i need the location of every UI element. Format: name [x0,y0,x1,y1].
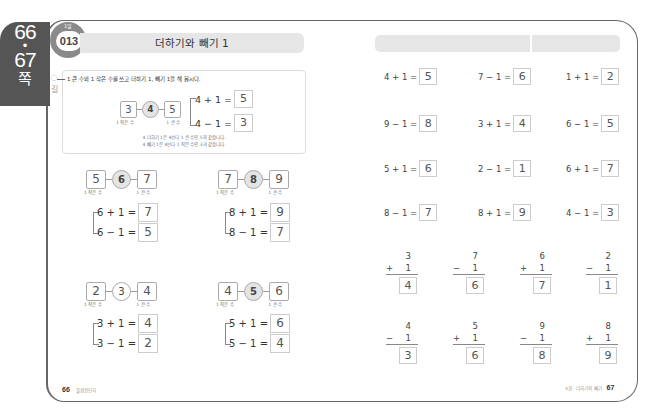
chain-labels: 1 작은 수 1 큰 수 [216,189,282,195]
larger-number[interactable]: 7 [137,170,157,189]
add-answer[interactable]: 7 [138,203,158,222]
answer-box[interactable]: 5 [601,115,619,132]
larger-number[interactable]: 9 [269,170,289,189]
page-suffix: 쪽 [0,70,50,88]
example-add: 4 + 1 = 5 [195,90,253,108]
answer-box[interactable]: 2 [601,68,619,85]
smaller-number[interactable]: 2 [86,282,106,301]
answer-box[interactable]: 5 [419,68,437,85]
expression: 4 + 1 = [384,72,417,82]
add-answer[interactable]: 4 [138,314,158,333]
answer-box[interactable]: 9 [513,204,531,221]
add-expression: 5 + 1 = [229,318,268,329]
vertical-problem: 2 −1 1 [586,250,618,294]
smaller-label: 1 작은 수 [216,301,234,307]
answer-box[interactable]: 8 [533,347,551,364]
footer-left: 66풀셈전단지 [62,386,96,393]
center-number: 6 [112,170,131,189]
sub-answer[interactable]: 3 [234,114,253,132]
chain-labels: 1 작은 수 1 큰 수 [116,119,180,125]
answer-box[interactable]: 6 [466,277,484,294]
horizontal-problem: 8 − 1 =7 [384,204,437,221]
horizontal-problem: 2 − 1 =1 [478,160,531,177]
answer-box[interactable]: 4 [399,277,417,294]
horizontal-problem: 7 − 1 =6 [478,68,531,85]
vertical-problem: 9 −1 8 [520,320,552,364]
operator: + [520,262,527,274]
lesson-title: 더하기와 빼기 1 [80,33,304,53]
larger-label: 1 큰 수 [136,301,150,307]
vertical-problem: 6 +1 7 [520,250,552,294]
vertical-problem: 7 −1 6 [453,250,485,294]
answer-box[interactable]: 8 [419,115,437,132]
center-number: 8 [244,170,263,189]
sub-answer[interactable]: 7 [270,223,290,242]
example-box: 1 큰 수와 1 작은 수를 쓰고 더하기 1, 빼기 1을 해 봅시다. 3 … [62,70,306,154]
answer-box[interactable]: 7 [419,204,437,221]
answer-box[interactable]: 9 [599,347,617,364]
add-answer[interactable]: 5 [234,90,253,108]
horizontal-problem: 8 + 1 =9 [478,204,531,221]
expression: 4 − 1 = [566,208,599,218]
smaller-number[interactable]: 4 [218,282,238,301]
sub-answer[interactable]: 5 [138,223,158,242]
answer-box[interactable]: 6 [419,160,437,177]
horizontal-problem: 9 − 1 =8 [384,115,437,132]
note-add: 4 더하기 1은 4보다 1 큰 수인 5와 같습니다. [63,134,305,140]
answer-box[interactable]: 6 [466,347,484,364]
answer-box[interactable]: 3 [601,204,619,221]
answer-box[interactable]: 1 [513,160,531,177]
bottom-number: 1 [606,332,611,344]
top-number: 5 [453,320,485,332]
expression: 8 − 1 = [384,208,417,218]
practice-sub-3: 3 − 1 = 2 [97,334,158,353]
practice-sub-4: 5 − 1 = 4 [229,334,290,353]
page-end: 67 [0,50,50,70]
practice-add-1: 6 + 1 = 7 [97,203,158,222]
larger-number[interactable]: 4 [137,282,157,301]
answer-box[interactable]: 7 [533,277,551,294]
expression: 7 − 1 = [478,72,511,82]
smaller-label: 1 작은 수 [116,119,134,125]
add-expression: 3 + 1 = [97,318,136,329]
page-number-left: 66 [62,386,70,393]
answer-box[interactable]: 6 [513,68,531,85]
operator: + [586,332,593,344]
center-number: 3 [112,282,131,301]
lesson-day: 1일 [50,22,86,29]
horizontal-problem: 5 + 1 =6 [384,160,437,177]
footer-left-text: 풀셈전단지 [76,388,96,393]
bottom-number: 1 [540,332,545,344]
add-answer[interactable]: 9 [270,203,290,222]
sub-expression: 3 − 1 = [97,338,136,349]
top-number: 2 [586,250,618,262]
sub-answer[interactable]: 4 [270,334,290,353]
sub-expression: 6 − 1 = [97,227,136,238]
smaller-number[interactable]: 7 [218,170,238,189]
practice-add-2: 8 + 1 = 9 [229,203,290,222]
chain-labels: 1 작은 수 1 큰 수 [216,301,282,307]
horizontal-problem: 4 − 1 =3 [566,204,619,221]
sub-answer[interactable]: 2 [138,334,158,353]
add-answer[interactable]: 6 [270,314,290,333]
larger-label: 1 큰 수 [166,119,180,125]
sub-expression: 4 − 1 = [195,118,232,129]
horizontal-problem: 6 + 1 =7 [566,160,619,177]
top-number: 3 [386,250,418,262]
answer-box[interactable]: 4 [513,115,531,132]
answer-box[interactable]: 3 [399,347,417,364]
answer-box[interactable]: 1 [599,277,617,294]
expression: 9 − 1 = [384,119,417,129]
vertical-problem: 4 −1 3 [386,320,418,364]
larger-number[interactable]: 6 [269,282,289,301]
smaller-number[interactable]: 5 [86,170,106,189]
top-number: 4 [386,320,418,332]
top-number: 9 [520,320,552,332]
answer-box[interactable]: 7 [601,160,619,177]
add-expression: 4 + 1 = [195,94,232,105]
footer-right: 4권 · 더하기와 빼기67 [565,384,614,391]
vertical-problem: 8 +1 9 [586,320,618,364]
center-number: 5 [244,282,263,301]
page-range-tab: 66 • 67 쪽 [0,22,50,106]
page-number-right: 67 [607,384,615,391]
